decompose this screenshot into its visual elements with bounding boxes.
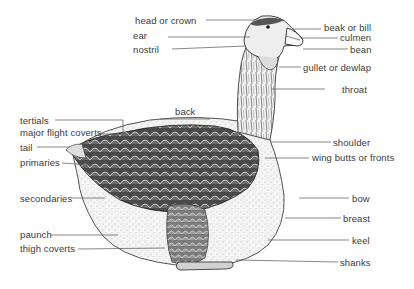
leader-line-shanks xyxy=(236,260,338,262)
label-major-flight-coverts: major flight coverts xyxy=(20,127,102,138)
label-secondaries: secondaries xyxy=(20,193,72,204)
label-thigh-coverts: thigh coverts xyxy=(20,243,75,254)
label-ear: ear xyxy=(133,30,147,41)
beak-icon xyxy=(285,28,303,46)
label-bow: bow xyxy=(352,193,370,204)
label-gullet-or-dewlap: gullet or dewlap xyxy=(303,62,371,73)
goose-anatomy-diagram: head or crownearnostrilbeak or billculme… xyxy=(0,0,414,289)
label-tertials: tertials xyxy=(20,115,49,126)
label-wing-butts-or-fronts: wing butts or fronts xyxy=(312,152,394,163)
label-nostril: nostril xyxy=(133,44,159,55)
label-keel: keel xyxy=(352,235,370,246)
label-breast: breast xyxy=(343,213,370,224)
label-head-or-crown: head or crown xyxy=(135,15,197,26)
label-tail: tail xyxy=(20,142,33,153)
eye-icon xyxy=(266,25,270,29)
label-paunch: paunch xyxy=(20,229,52,240)
thigh-coverts xyxy=(167,204,209,265)
label-back: back xyxy=(175,106,195,117)
label-primaries: primaries xyxy=(20,157,60,168)
label-throat: throat xyxy=(342,84,367,95)
label-shoulder: shoulder xyxy=(333,137,370,148)
goose-feet xyxy=(176,262,233,270)
label-shanks: shanks xyxy=(340,257,371,268)
label-culmen: culmen xyxy=(340,32,371,43)
label-bean: bean xyxy=(350,44,372,55)
leader-line-nostril xyxy=(172,46,246,49)
